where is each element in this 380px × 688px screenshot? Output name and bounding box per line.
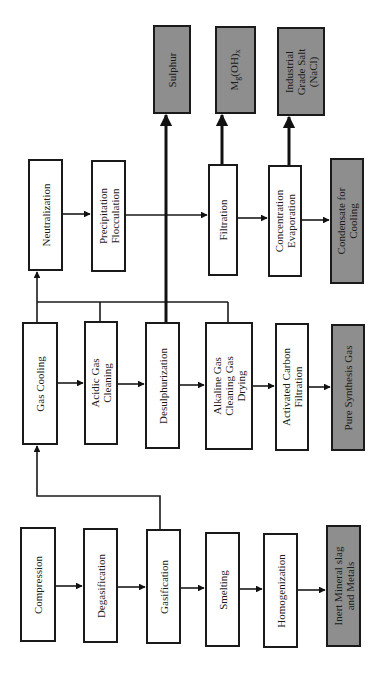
gas-cooling-box: Gas Cooling — [22, 322, 58, 445]
activated-carbon-filtration-box: Activated Carbon Filtration — [275, 323, 309, 451]
gas-cooling-label: Gas Cooling — [34, 356, 46, 411]
precipitation-flocculation-box: Precipitation Flocculation — [91, 160, 126, 272]
magnesium-hydroxide-output-box: Mg(OH)x — [215, 26, 256, 114]
compression-box: Compression — [20, 527, 56, 642]
sulphur-output-box: Sulphur — [153, 25, 191, 114]
degasification-box: Degasification — [83, 528, 118, 643]
alkaline-gas-cleaning-label: Alkaline Gas Cleaning Gas Drying — [211, 356, 247, 416]
inert-mineral-slag-output-box: Inert Mineral slag and Metals — [326, 525, 361, 647]
concentration-evaporation-label: Concentration Evaporation — [273, 190, 297, 252]
pure-synthesis-gas-label: Pure Synthesis Gas — [342, 345, 354, 430]
gasification-label: Gasification — [158, 560, 170, 614]
acidic-gas-cleaning-box: Acidic Gas Cleaning — [84, 321, 118, 445]
sulphur-label: Sulphur — [166, 52, 178, 87]
desulphurization-label: Desulphurization — [157, 348, 169, 424]
desulphurization-box: Desulphurization — [145, 322, 180, 449]
neutralization-box: Neutralization — [28, 159, 63, 271]
degasification-label: Degasification — [95, 553, 107, 617]
precipitation-flocculation-label: Precipitation Flocculation — [97, 188, 121, 244]
condensate-label: Condensate for Cooling — [335, 188, 359, 255]
condensate-output-box: Condensate for Cooling — [330, 158, 364, 284]
magnesium-hydroxide-label: Mg(OH)x — [228, 50, 244, 91]
smelting-label: Smelting — [217, 570, 229, 610]
homogenization-label: Homogenization — [275, 554, 287, 627]
alkaline-gas-cleaning-box: Alkaline Gas Cleaning Gas Drying — [205, 322, 253, 450]
concentration-evaporation-box: Concentration Evaporation — [268, 165, 302, 277]
industrial-salt-label: Industrial Grade Salt (NaCl) — [283, 48, 319, 95]
filtration-label: Filtration — [217, 200, 229, 241]
acidic-gas-cleaning-label: Acidic Gas Cleaning — [89, 358, 113, 407]
filtration-box: Filtration — [208, 164, 238, 276]
homogenization-box: Homogenization — [263, 533, 298, 648]
activated-carbon-filtration-label: Activated Carbon Filtration — [280, 348, 304, 426]
neutralization-label: Neutralization — [40, 184, 52, 247]
smelting-box: Smelting — [205, 532, 240, 647]
gasification-box: Gasification — [146, 529, 181, 644]
pure-synthesis-gas-output-box: Pure Synthesis Gas — [331, 324, 365, 451]
inert-mineral-slag-label: Inert Mineral slag and Metals — [332, 547, 356, 626]
industrial-salt-output-box: Industrial Grade Salt (NaCl) — [277, 27, 325, 116]
compression-label: Compression — [32, 555, 44, 613]
